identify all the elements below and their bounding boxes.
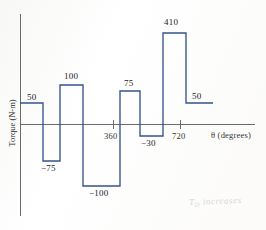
data-label-100: 100 [64, 71, 78, 81]
pencil-note-rest: increases [200, 195, 242, 207]
x-axis-label: θ (degrees) [211, 130, 251, 140]
data-label-50-first: 50 [27, 92, 36, 102]
data-label-50-last: 50 [192, 91, 201, 101]
data-label-minus-30: −30 [141, 138, 156, 148]
x-tick-label-360: 360 [104, 131, 117, 141]
data-label-minus-100: −100 [89, 188, 108, 198]
handwritten-pencil-note: TD increases [189, 195, 242, 208]
data-label-minus-75: −75 [41, 163, 56, 173]
torque-step-chart: Torque (N-m) θ (degrees) 360 720 50 −75 … [0, 0, 266, 230]
y-axis-label: Torque (N-m) [7, 91, 17, 155]
x-tick-label-720: 720 [172, 131, 185, 141]
data-label-410: 410 [164, 17, 178, 27]
data-label-75: 75 [124, 78, 133, 88]
